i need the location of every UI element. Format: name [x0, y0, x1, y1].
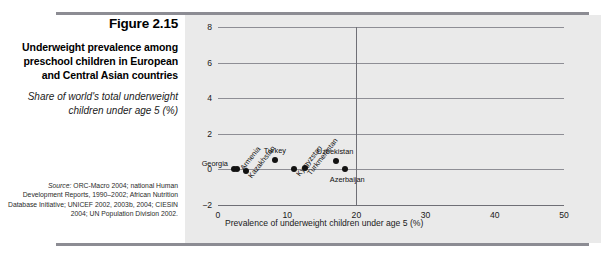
gridline — [218, 169, 564, 170]
plot-area: 86420−2 01020304050 GeorgiaArmeniaKazakh… — [218, 27, 564, 205]
data-point-label: Turkey — [264, 147, 286, 154]
data-point — [333, 158, 339, 164]
scatter-chart: 86420−2 01020304050 GeorgiaArmeniaKazakh… — [185, 15, 601, 243]
figure-number: Figure 2.15 — [8, 16, 178, 31]
x-tick-label: 40 — [475, 211, 515, 220]
gridline — [218, 134, 564, 135]
y-tick-label: −2 — [190, 201, 212, 210]
figure-source-note: Source: ORC-Macro 2004; national Human D… — [8, 181, 178, 219]
source-text: ORC-Macro 2004; national Human Developme… — [8, 182, 178, 217]
x-axis-line — [218, 205, 564, 206]
figure-caption: Figure 2.15 Underweight prevalence among… — [8, 16, 178, 118]
figure-page: Figure 2.15 Underweight prevalence among… — [0, 0, 601, 256]
x-axis-label: Prevalence of underweight children under… — [225, 218, 423, 228]
data-point-label: Uzbekistan — [317, 148, 354, 155]
data-point-label: Azerbaijan — [330, 176, 365, 183]
y-tick-label: 8 — [190, 23, 212, 32]
y-tick-label: 6 — [190, 59, 212, 68]
figure-subtitle: Share of world's total underweight child… — [8, 90, 178, 118]
y-tick-label: 2 — [190, 130, 212, 139]
data-point-label: Georgia — [202, 160, 228, 167]
bottom-rule — [56, 243, 589, 246]
data-point — [342, 166, 348, 172]
figure-title: Underweight prevalence among preschool c… — [8, 40, 178, 83]
gridline — [218, 63, 564, 64]
gridline — [218, 27, 564, 28]
x-tick-label: 50 — [544, 211, 584, 220]
y-tick-label: 4 — [190, 94, 212, 103]
gridline — [218, 98, 564, 99]
data-point — [272, 157, 278, 163]
source-label: Source: — [48, 182, 71, 189]
